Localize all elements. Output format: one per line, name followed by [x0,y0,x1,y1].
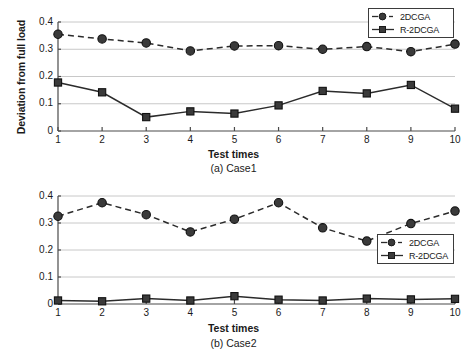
x-tick-label-a: 5 [222,134,246,145]
x-tick-label-b: 5 [222,307,246,318]
x-tick-label-b: 8 [355,307,379,318]
x-tick-label-b: 10 [443,307,467,318]
legend-label-r2dcga: R-2DCGA [409,251,448,261]
x-tick-label-a: 9 [399,134,423,145]
legend-entry-2dcga: 2DCGA [372,11,449,22]
legend-entry-r2dcga: R-2DCGA [372,24,449,35]
legend-symbol-solid-square [381,250,407,261]
x-tick-label-a: 8 [355,134,379,145]
chart-panel-case1: Deviation from full load Test times (a) … [0,0,467,176]
legend-entry-2dcga: 2DCGA [381,237,449,248]
x-tick-label-b: 2 [90,307,114,318]
panel-caption-case2: (b) Case2 [0,337,467,349]
legend-case2: 2DCGA R-2DCGA [377,234,454,264]
x-tick-label-b: 6 [267,307,291,318]
legend-symbol-dashed-circle [381,237,407,248]
y-tick-label-a: 0.1 [27,97,53,108]
x-tick-label-b: 1 [46,307,70,318]
x-tick-label-a: 4 [178,134,202,145]
x-tick-label-b: 3 [134,307,158,318]
figure-container: Deviation from full load Test times (a) … [0,0,467,353]
y-tick-label-a: 0.3 [27,43,53,54]
legend-label-2dcga: 2DCGA [400,12,430,22]
legend-case1: 2DCGA R-2DCGA [368,8,454,38]
x-tick-label-a: 1 [46,134,70,145]
x-tick-label-b: 4 [178,307,202,318]
x-axis-title-case2: Test times [0,322,467,334]
y-tick-label-b: 0.1 [27,271,53,282]
x-tick-label-b: 7 [311,307,335,318]
x-axis-title-case1: Test times [0,148,467,160]
x-tick-label-b: 9 [399,307,423,318]
x-tick-label-a: 6 [267,134,291,145]
y-axis-title-case2: Deviation from full load [15,349,31,353]
legend-symbol-solid-square [372,24,398,35]
y-tick-label-b: 0.2 [27,244,53,255]
y-tick-label-a: 0.4 [27,16,53,27]
legend-label-r2dcga: R-2DCGA [400,25,439,35]
x-tick-label-a: 7 [311,134,335,145]
x-tick-label-a: 3 [134,134,158,145]
y-tick-label-b: 0.3 [27,217,53,228]
legend-symbol-dashed-circle [372,11,398,22]
panel-caption-case1: (a) Case1 [0,162,467,174]
y-tick-label-b: 0.4 [27,190,53,201]
legend-label-2dcga: 2DCGA [409,238,439,248]
y-tick-label-a: 0.2 [27,70,53,81]
x-tick-label-a: 10 [443,134,467,145]
x-tick-label-a: 2 [90,134,114,145]
legend-entry-r2dcga: R-2DCGA [381,250,449,261]
